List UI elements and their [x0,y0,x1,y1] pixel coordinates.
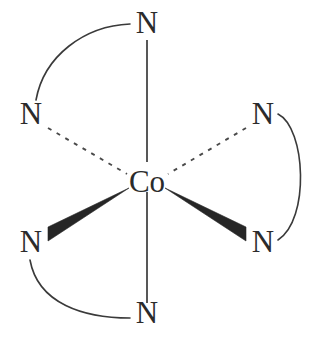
bond-upper-left-n-to-co-dashed [48,128,127,174]
chelate-arc-right [278,114,301,240]
atom-label-n-upper-left: N [20,96,42,131]
atom-label-n-lower-right: N [252,224,274,259]
chemical-structure-canvas: Co N N N N N N [0,0,324,338]
atom-label-n-bottom: N [136,295,158,330]
chelate-arc-top-left [36,24,130,100]
atom-label-n-lower-left: N [20,224,42,259]
atom-label-n-upper-right: N [252,96,274,131]
bond-lower-left-n-to-co-wedge [48,188,129,241]
chelate-arc-bottom-left [30,260,130,318]
atom-label-co: Co [129,164,165,199]
bond-lower-right-n-to-co-wedge [165,188,246,241]
atom-label-n-top: N [136,5,158,40]
bond-upper-right-n-to-co-dashed [168,128,246,174]
structure-diagram: Co N N N N N N [0,0,324,338]
